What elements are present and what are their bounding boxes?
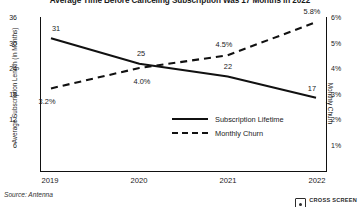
y-tick-label-right: 4% xyxy=(331,65,357,72)
y-tick-label-left: 12 xyxy=(0,116,17,123)
y-tick-label-left: 24 xyxy=(0,65,17,72)
data-point-label: 22 xyxy=(224,61,232,70)
x-tick-label: 2021 xyxy=(198,176,258,185)
x-tick-label: 2022 xyxy=(287,176,347,185)
x-tick-label: 2020 xyxy=(109,176,169,185)
data-point-label: 17 xyxy=(308,83,316,92)
data-point-label: 31 xyxy=(52,24,60,33)
data-point-label: 5.8% xyxy=(304,7,321,16)
y-tick-label-right: 3% xyxy=(331,90,357,97)
legend-item-subscription-lifetime[interactable]: Subscription Lifetime xyxy=(172,112,284,126)
y-tick-label-right: 2% xyxy=(331,116,357,123)
x-tick-label: 2019 xyxy=(20,176,80,185)
data-point-label: 4.5% xyxy=(216,40,233,49)
y-tick-label-left: 6 xyxy=(0,141,17,148)
series-line xyxy=(51,22,316,88)
y-tick-label-right: 5% xyxy=(331,39,357,46)
legend-label: Subscription Lifetime xyxy=(215,115,284,124)
brand-logo: CROSS SCREEN MEDIA xyxy=(295,189,357,207)
legend-label: Monthly Churn xyxy=(215,129,263,138)
y-tick-label-right: 6% xyxy=(331,14,357,21)
legend-item-monthly-churn[interactable]: Monthly Churn xyxy=(172,126,284,140)
plot-lines xyxy=(41,17,326,170)
legend-swatch-solid-icon xyxy=(172,118,208,120)
legend-swatch-dashed-icon xyxy=(172,132,208,134)
series-line xyxy=(51,38,316,98)
y-tick-label-right: 1% xyxy=(331,141,357,148)
brand-name: CROSS SCREEN xyxy=(309,197,357,203)
chart-figure: Average Time Before Canceling Subscripti… xyxy=(0,0,360,207)
y-tick-label-left: 36 xyxy=(0,14,17,21)
data-point-label: 25 xyxy=(137,48,145,57)
data-point-label: 4.0% xyxy=(134,77,151,86)
chart-title: Average Time Before Canceling Subscripti… xyxy=(0,0,360,5)
data-point-label: 3.2% xyxy=(39,97,56,106)
y-tick-label-left: 18 xyxy=(0,90,17,97)
y-tick-label-left: 30 xyxy=(0,39,17,46)
y-axis-title-right: Monthly Churn xyxy=(327,67,334,141)
camera-aperture-icon xyxy=(295,198,306,207)
source-note: Source: Antenna xyxy=(4,191,53,198)
chart-legend: Subscription Lifetime Monthly Churn xyxy=(172,112,284,140)
plot-area xyxy=(40,17,327,172)
